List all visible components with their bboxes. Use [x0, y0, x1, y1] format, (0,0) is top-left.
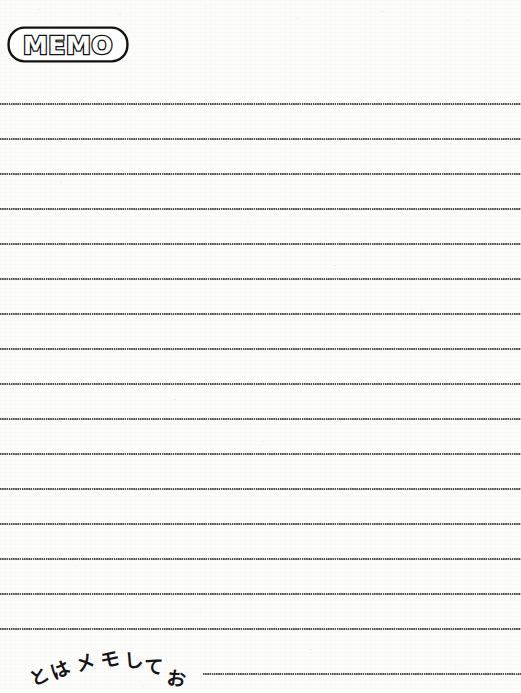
memo-logo-text: MEMO — [23, 31, 113, 60]
ruled-line — [0, 243, 521, 245]
ruled-line — [0, 173, 521, 175]
ruled-line — [0, 488, 521, 490]
ruled-line — [0, 383, 521, 385]
ruled-line — [0, 138, 521, 140]
handwritten-glyph: て — [144, 655, 164, 678]
ruled-line — [0, 558, 521, 560]
ruled-line — [0, 278, 521, 280]
memo-page: MEMO MEMO とはメモしてお とはメモして — [0, 0, 521, 693]
handwritten-glyph: モ — [98, 646, 121, 671]
memo-logo: MEMO — [7, 26, 129, 63]
ruled-line — [0, 103, 521, 105]
handwritten-note: とはメモしてお — [28, 642, 218, 693]
ruled-line — [0, 593, 521, 595]
ruled-line — [0, 313, 521, 315]
handwritten-glyph: し — [123, 648, 144, 672]
ruled-line — [0, 453, 521, 455]
ruled-line — [203, 673, 521, 675]
ruled-line — [0, 418, 521, 420]
ruled-line — [0, 628, 521, 630]
handwritten-glyph: お — [165, 666, 187, 690]
ruled-line — [0, 348, 521, 350]
ruled-line — [0, 523, 521, 525]
handwritten-glyph: メ — [72, 649, 97, 676]
ruled-line — [0, 208, 521, 210]
